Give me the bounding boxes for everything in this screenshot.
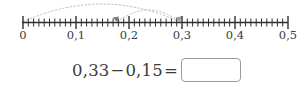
math-worksheet: 0 0,1 0,2 0,3 0,4 0,5 0,33 − 0,15 = xyxy=(0,0,302,91)
equation-area: 0,33 − 0,15 = xyxy=(0,54,302,91)
subtraction-arc-total-path xyxy=(23,4,180,22)
equation-row: 0,33 − 0,15 = xyxy=(72,54,241,86)
number-line-svg xyxy=(0,0,302,48)
tick-label-0-3: 0,3 xyxy=(173,29,191,42)
tick-label-0-2: 0,2 xyxy=(120,29,138,42)
minus-operator: − xyxy=(110,61,126,80)
equals-sign: = xyxy=(163,61,179,80)
tick-label-0-4: 0,4 xyxy=(226,29,244,42)
tick-label-0-5: 0,5 xyxy=(279,29,297,42)
number-line-diagram: 0 0,1 0,2 0,3 0,4 0,5 xyxy=(0,0,302,48)
tick-label-0: 0 xyxy=(19,29,26,42)
minuend: 0,33 xyxy=(72,61,110,80)
subtrahend: 0,15 xyxy=(125,61,163,80)
tick-label-0-1: 0,1 xyxy=(67,29,85,42)
subtraction-arc-difference-path xyxy=(117,10,180,22)
answer-input[interactable] xyxy=(181,58,241,82)
